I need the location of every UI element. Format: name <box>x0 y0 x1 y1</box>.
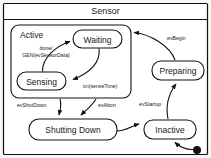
transition-evshutdown-label: evShutDown <box>17 102 47 108</box>
transition-sensing-to-waiting-action: GEN(evSensorData) <box>22 52 70 58</box>
state-active-label: Active <box>20 30 43 40</box>
transition-inactive-to-preparing-label: evStartup <box>139 101 161 107</box>
state-sensing-label: Sensing <box>26 77 57 87</box>
state-preparing-label: Preparing <box>160 66 197 76</box>
initial-pseudostate[interactable] <box>193 146 201 154</box>
transition-preparing-to-active-label: evBegin <box>167 35 186 41</box>
diagram-title: Sensor <box>91 6 120 16</box>
state-inactive-label: Inactive <box>155 125 185 135</box>
sensor-state-machine-diagram: Sensor Active Waiting Sensing tm(senseTi… <box>0 0 211 158</box>
state-shutting-down-label: Shutting Down <box>45 125 101 135</box>
state-diagram-canvas: Sensor Active Waiting Sensing tm(senseTi… <box>0 0 211 158</box>
transition-evabort-label: evAbort <box>98 102 116 108</box>
transition-sensing-to-waiting-trigger: done/ <box>40 45 54 51</box>
transition-waiting-to-sensing-label: tm(senseTime) <box>83 83 118 89</box>
state-waiting-label: Waiting <box>83 35 111 45</box>
